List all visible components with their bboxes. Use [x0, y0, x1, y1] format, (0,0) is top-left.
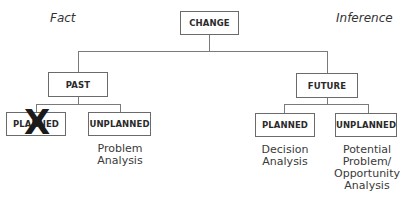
- past-node: PAST: [48, 72, 108, 97]
- connector: [78, 51, 79, 72]
- decision-analysis-label: Decision Analysis: [262, 144, 309, 168]
- description-line: Analysis: [97, 155, 142, 167]
- inference-label: Inference: [336, 11, 393, 25]
- past-unplanned-label: UNPLANNED: [89, 119, 149, 129]
- connector: [78, 51, 328, 52]
- fact-label: Fact: [50, 11, 76, 25]
- future-planned-label: PLANNED: [262, 120, 308, 130]
- future-node-label: FUTURE: [308, 81, 346, 91]
- past-node-label: PAST: [66, 80, 90, 90]
- future-unplanned-node: UNPLANNED: [335, 113, 397, 137]
- connector: [327, 51, 328, 73]
- connector: [368, 104, 369, 113]
- problem-analysis-label: Problem Analysis: [97, 143, 142, 167]
- change-node: CHANGE: [180, 11, 239, 35]
- future-node: FUTURE: [296, 73, 358, 98]
- future-planned-node: PLANNED: [255, 113, 315, 137]
- change-node-label: CHANGE: [189, 18, 229, 28]
- connector: [284, 104, 369, 105]
- past-unplanned-node: UNPLANNED: [88, 112, 151, 136]
- potential-problem-opportunity-analysis-label: Potential Problem/ Opportunity Analysis: [334, 144, 400, 192]
- cross-out-icon: X: [24, 104, 50, 140]
- description-line: Analysis: [262, 156, 309, 168]
- connector: [120, 104, 121, 112]
- future-unplanned-label: UNPLANNED: [336, 120, 396, 130]
- connector: [209, 35, 210, 52]
- description-line: Analysis: [334, 180, 400, 192]
- connector: [284, 104, 285, 113]
